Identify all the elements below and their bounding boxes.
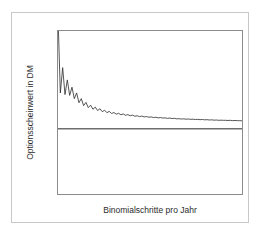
- x-tick-mark-20: [102, 194, 103, 195]
- y-tick-mark-30: [57, 96, 58, 97]
- y-tick-mark-34: [57, 31, 58, 32]
- data-series-binomialwert: [58, 31, 242, 121]
- x-tick-mark-10: [78, 194, 79, 195]
- chart-figure: Optionsscheinwert in DM 242628303234 110…: [0, 0, 266, 243]
- x-tick-mark-60: [195, 194, 196, 195]
- x-tick-mark-1: [58, 194, 59, 195]
- y-axis-title: Optionsscheinwert in DM: [24, 30, 36, 195]
- y-tick-mark-28: [57, 128, 58, 129]
- x-tick-mark-30: [125, 194, 126, 195]
- plot-canvas: [58, 31, 242, 194]
- plot-area: 242628303234 11020304050607080: [57, 30, 243, 195]
- x-tick-mark-40: [148, 194, 149, 195]
- series-line: [58, 31, 242, 121]
- y-tick-mark-32: [57, 63, 58, 64]
- x-axis-title: Binomialschritte pro Jahr: [57, 206, 243, 215]
- x-tick-mark-80: [242, 194, 243, 195]
- x-tick-mark-50: [172, 194, 173, 195]
- x-tick-mark-70: [218, 194, 219, 195]
- y-tick-mark-26: [57, 161, 58, 162]
